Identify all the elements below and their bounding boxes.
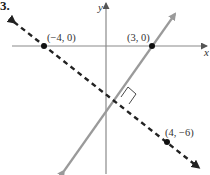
point-neg4-0 (41, 43, 47, 49)
point-4-neg6 (164, 139, 170, 145)
label-3-0: (3, 0) (127, 32, 150, 44)
y-axis-label: y (97, 1, 103, 13)
label-neg4-0: (−4, 0) (47, 32, 76, 44)
x-axis-label: x (203, 46, 209, 58)
right-angle-marker (121, 87, 136, 104)
problem-number: 3. (0, 0, 10, 13)
point-3-0 (149, 43, 155, 49)
solid-line (64, 14, 175, 171)
label-4-neg6: (4, −6) (165, 127, 194, 139)
coordinate-diagram: 3. y x (−4, 0) (3, 0) (4, −6) (0, 0, 210, 175)
